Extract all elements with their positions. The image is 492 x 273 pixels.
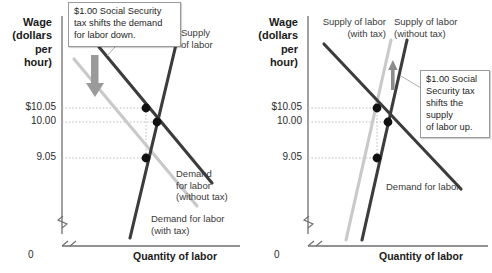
origin-label: 0	[28, 249, 34, 261]
tick-label-1005: $10.05	[2, 101, 56, 113]
demand-label: Demand for labor	[386, 181, 459, 193]
x-axis-break	[308, 241, 322, 246]
panel-supply-shift: Wage (dollars per hour) $10.05 10.00 9.0…	[246, 0, 492, 273]
point-905	[373, 154, 382, 163]
tick-label-1000: 10.00	[2, 115, 56, 127]
tick-label-1000: 10.00	[248, 115, 302, 127]
point-1000	[384, 118, 393, 127]
x-axis-break	[62, 241, 76, 246]
supply-label: Supply of labor	[181, 27, 213, 50]
point-1000	[153, 118, 162, 127]
supply-with-tax-label: Supply of labor (with tax)	[296, 16, 386, 39]
tick-label-905: 9.05	[248, 151, 302, 163]
point-905	[142, 154, 151, 163]
callout-leader-right	[401, 76, 421, 88]
curve-demand-without-tax	[99, 47, 212, 183]
x-axis-title: Quantity of labor	[379, 250, 463, 263]
point-1005	[142, 104, 151, 113]
panel-demand-shift: Wage (dollars per hour) $10.05 10.00 9.0…	[0, 0, 246, 273]
callout-demand-shift: $1.00 Social Security tax shifts the dem…	[68, 2, 181, 47]
point-1005	[373, 104, 382, 113]
x-axis-title: Quantity of labor	[133, 250, 217, 263]
tick-label-905: 9.05	[2, 151, 56, 163]
origin-label: 0	[274, 249, 280, 261]
supply-without-tax-label: Supply of labor (without tax)	[394, 16, 457, 39]
y-axis-title: Wage (dollars per hour)	[246, 16, 298, 70]
demand-without-tax-label: Demand for labor (without tax)	[176, 168, 228, 203]
y-axis-title: Wage (dollars per hour)	[0, 16, 52, 70]
tick-label-1005: $10.05	[248, 101, 302, 113]
demand-with-tax-label: Demand for labor (with tax)	[151, 213, 224, 236]
callout-supply-shift: $1.00 Social Security tax shifts the sup…	[420, 70, 490, 138]
